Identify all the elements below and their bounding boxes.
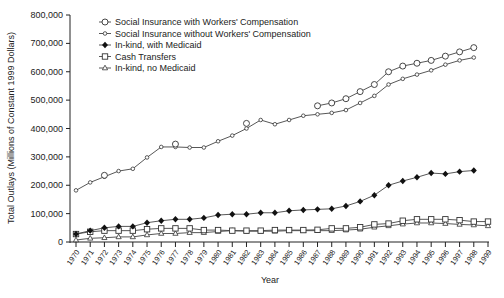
square-marker <box>201 227 206 232</box>
square-marker <box>471 219 476 224</box>
square-marker <box>159 226 164 231</box>
circle-marker <box>400 63 406 69</box>
filled-diamond-marker <box>315 206 321 212</box>
diamond-marker <box>230 134 234 138</box>
filled-diamond-marker <box>229 211 235 217</box>
legend-label: In-kind, with Medicaid <box>115 40 202 50</box>
square-marker <box>457 217 462 222</box>
y-tick-label: 800,000 <box>30 10 63 20</box>
diamond-marker <box>117 169 121 173</box>
diamond-marker <box>387 83 391 87</box>
square-marker <box>386 221 391 226</box>
circle-marker <box>243 120 249 126</box>
square-marker <box>173 226 178 231</box>
y-tick-label: 400,000 <box>30 124 63 134</box>
triangle-marker <box>116 234 121 239</box>
circle-marker <box>172 141 178 147</box>
y-tick-label: 200,000 <box>30 180 63 190</box>
circle-marker <box>414 60 420 66</box>
square-marker <box>102 54 107 59</box>
data-series <box>73 45 491 242</box>
x-tick-label: 1973 <box>107 248 124 267</box>
legend-label: Cash Transfers <box>115 52 177 62</box>
circle-marker <box>357 89 363 95</box>
x-tick-label: 1970 <box>65 248 82 267</box>
circle-marker <box>371 82 377 88</box>
x-tick-label: 1984 <box>264 248 281 267</box>
filled-diamond-marker <box>400 178 406 184</box>
y-axis-label: Total Outlays (Millions of Constant 1999… <box>6 32 16 224</box>
filled-diamond-marker <box>471 167 477 173</box>
series-4 <box>73 220 490 242</box>
circle-marker <box>428 57 434 63</box>
legend-item: In-kind, with Medicaid <box>99 40 202 50</box>
diamond-marker <box>344 108 348 112</box>
x-tick-label: 1981 <box>221 248 238 267</box>
diamond-marker <box>259 118 263 122</box>
circle-marker <box>343 96 349 102</box>
x-tick-label: 1987 <box>306 248 323 267</box>
x-tick-label: 1977 <box>164 248 181 267</box>
filled-diamond-marker <box>215 212 221 218</box>
filled-diamond-marker <box>329 206 335 212</box>
square-marker <box>286 227 291 232</box>
square-marker <box>272 227 277 232</box>
circle-marker <box>102 19 108 25</box>
square-marker <box>400 218 405 223</box>
x-tick-label: 1992 <box>377 248 394 267</box>
x-tick-label: 1985 <box>278 248 295 267</box>
filled-diamond-marker <box>158 218 164 224</box>
diamond-marker <box>245 127 249 131</box>
filled-diamond-marker <box>102 42 108 48</box>
x-tick-label: 1983 <box>249 248 266 267</box>
square-marker <box>244 228 249 233</box>
diamond-marker <box>159 145 163 149</box>
series-2 <box>73 167 477 237</box>
filled-diamond-marker <box>414 174 420 180</box>
x-tick-label: 1996 <box>434 248 451 267</box>
diamond-marker <box>103 32 107 36</box>
filled-diamond-marker <box>386 182 392 188</box>
filled-diamond-marker <box>172 216 178 222</box>
legend: Social Insurance with Workers' Compensat… <box>99 17 311 73</box>
circle-marker <box>329 100 335 106</box>
filled-diamond-marker <box>457 168 463 174</box>
diamond-marker <box>216 139 220 143</box>
legend-label: Social Insurance without Workers' Compen… <box>115 29 311 39</box>
circle-marker <box>457 49 463 55</box>
filled-diamond-marker <box>357 198 363 204</box>
series-1 <box>74 56 475 192</box>
y-tick-label: 500,000 <box>30 95 63 105</box>
square-marker <box>329 226 334 231</box>
diamond-marker <box>458 59 462 63</box>
square-marker <box>144 227 149 232</box>
filled-diamond-marker <box>187 216 193 222</box>
diamond-marker <box>358 101 362 105</box>
circle-marker <box>386 69 392 75</box>
diamond-marker <box>145 156 149 160</box>
square-marker <box>215 227 220 232</box>
square-marker <box>428 217 433 222</box>
x-axis-label: Year <box>261 275 279 285</box>
filled-diamond-marker <box>300 207 306 213</box>
filled-diamond-marker <box>286 208 292 214</box>
legend-item: In-kind, no Medicaid <box>99 63 196 73</box>
y-tick-label: 600,000 <box>30 67 63 77</box>
x-tick-label: 1972 <box>93 248 110 267</box>
square-marker <box>343 226 348 231</box>
diamond-marker <box>202 146 206 150</box>
x-tick-label: 1998 <box>462 248 479 267</box>
diamond-marker <box>88 181 92 185</box>
x-tick-label: 1986 <box>292 248 309 267</box>
filled-diamond-marker <box>144 220 150 226</box>
square-marker <box>414 217 419 222</box>
y-tick-label: 100,000 <box>30 209 63 219</box>
filled-diamond-marker <box>371 192 377 198</box>
x-tick-label: 1989 <box>335 248 352 267</box>
y-axis: 0100,000200,000300,000400,000500,000600,… <box>30 10 70 247</box>
filled-diamond-marker <box>428 170 434 176</box>
y-tick-label: 300,000 <box>30 152 63 162</box>
x-axis: 1970197119721973197419751976197719781979… <box>65 242 494 267</box>
x-tick-label: 1974 <box>122 248 139 267</box>
x-tick-label: 1979 <box>193 248 210 267</box>
